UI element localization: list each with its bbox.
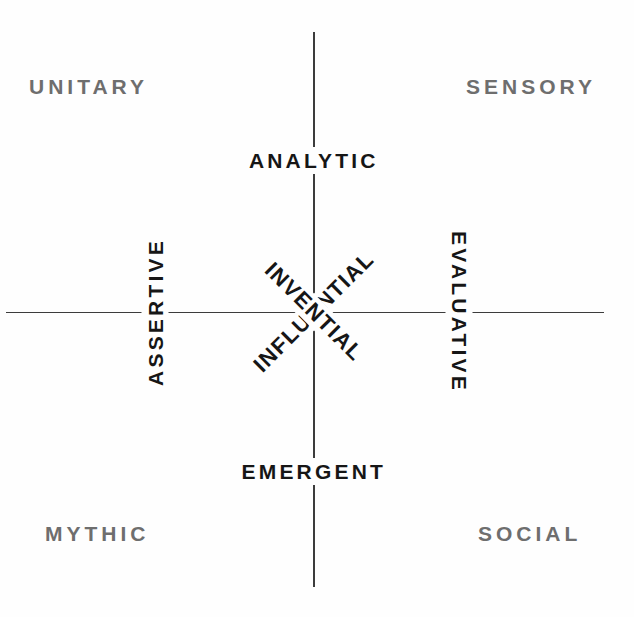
axis-label-bottom-emergent: EMERGENT (235, 458, 392, 485)
quadrant-label-top-left: UNITARY (29, 76, 148, 97)
quadrant-diagram-canvas: UNITARY SENSORY MYTHIC SOCIAL ANALYTIC E… (0, 0, 634, 617)
quadrant-label-bottom-left: MYTHIC (45, 523, 150, 544)
axis-label-left-assertive: ASSERTIVE (142, 232, 169, 392)
axis-label-top-analytic: ANALYTIC (243, 147, 385, 174)
axis-label-right-evaluative: EVALUATIVE (446, 225, 473, 399)
quadrant-label-top-right: SENSORY (466, 76, 596, 97)
quadrant-label-bottom-right: SOCIAL (478, 523, 581, 544)
